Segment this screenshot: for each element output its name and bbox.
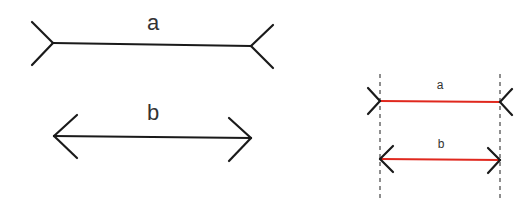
left-label-a: a [147,10,160,35]
right-figure: a b [368,74,512,200]
right-label-a: a [437,78,444,92]
illusion-diagram: a b a [0,0,532,206]
left-figure: a b [32,10,273,161]
right-line-a [368,88,512,115]
right-label-b: b [438,137,445,151]
left-label-b: b [147,100,159,125]
